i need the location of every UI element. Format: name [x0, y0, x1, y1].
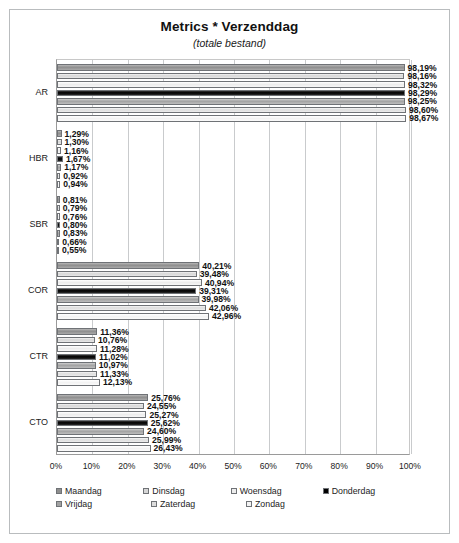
- x-axis-tick-label: 40%: [189, 461, 206, 471]
- bar-row: 98,60%: [57, 106, 409, 114]
- bar-group: 25,76%24,55%25,27%25,62%24,60%25,99%26,4…: [57, 393, 409, 452]
- legend-swatch-icon: [231, 488, 237, 494]
- bar-row: 42,96%: [57, 312, 409, 320]
- bar-row: 12,13%: [57, 378, 409, 386]
- bar-row: 0,76%: [57, 212, 409, 220]
- bar[interactable]: [57, 90, 405, 96]
- legend-label: Dinsdag: [152, 486, 184, 496]
- x-axis-tick-label: 30%: [154, 461, 171, 471]
- bar[interactable]: [57, 305, 206, 311]
- bar[interactable]: [57, 437, 149, 443]
- bar[interactable]: [57, 394, 148, 400]
- legend-row: VrijdagZaterdagZondag: [56, 499, 410, 509]
- bar[interactable]: [57, 271, 197, 277]
- bar[interactable]: [57, 81, 405, 87]
- legend-item-maandag[interactable]: Maandag: [56, 486, 143, 496]
- legend-label: Maandag: [65, 486, 102, 496]
- bar-row: 40,21%: [57, 261, 409, 269]
- bar-row: 40,94%: [57, 278, 409, 286]
- bar-row: 25,62%: [57, 419, 409, 427]
- bar-row: 98,19%: [57, 63, 409, 71]
- bar-row: 98,67%: [57, 114, 409, 122]
- chart-subtitle: (totale bestand): [0, 36, 459, 50]
- bar-row: 0,79%: [57, 204, 409, 212]
- bar[interactable]: [57, 64, 405, 70]
- bar[interactable]: [57, 328, 97, 334]
- legend-item-dinsdag[interactable]: Dinsdag: [143, 486, 230, 496]
- bar[interactable]: [57, 98, 405, 104]
- legend-item-zaterdag[interactable]: Zaterdag: [151, 499, 246, 509]
- bar-group: 98,19%98,16%98,32%98,29%98,25%98,60%98,6…: [57, 63, 409, 122]
- bar-value-label: 42,96%: [209, 311, 241, 321]
- x-axis-tick-label: 80%: [331, 461, 348, 471]
- legend-label: Woensdag: [240, 486, 282, 496]
- bar-group: 11,36%10,76%11,28%11,02%10,97%11,33%12,1…: [57, 327, 409, 386]
- legend-row: MaandagDinsdagWoensdagDonderdag: [56, 486, 410, 496]
- category-axis-label-cto: CTO: [0, 417, 48, 427]
- bar-row: 24,60%: [57, 427, 409, 435]
- legend-item-zondag[interactable]: Zondag: [246, 499, 346, 509]
- legend-label: Zaterdag: [160, 499, 195, 509]
- legend-item-woensdag[interactable]: Woensdag: [231, 486, 323, 496]
- bar[interactable]: [57, 371, 97, 377]
- bar-row: 25,76%: [57, 393, 409, 401]
- legend-swatch-icon: [56, 501, 62, 507]
- bar-row: 26,43%: [57, 444, 409, 452]
- legend-swatch-icon: [151, 501, 157, 507]
- x-axis-tick-label: 70%: [295, 461, 312, 471]
- bar-row: 1,67%: [57, 155, 409, 163]
- bar[interactable]: [57, 403, 144, 409]
- plot-area: 98,19%98,16%98,32%98,29%98,25%98,60%98,6…: [56, 59, 410, 455]
- legend-item-donderdag[interactable]: Donderdag: [323, 486, 410, 496]
- category-axis-label-cor: COR: [0, 285, 48, 295]
- bar[interactable]: [57, 296, 199, 302]
- bar[interactable]: [57, 115, 406, 121]
- bar-row: 0,83%: [57, 229, 409, 237]
- bar-row: 24,55%: [57, 402, 409, 410]
- bar[interactable]: [57, 337, 95, 343]
- bar-row: 1,16%: [57, 146, 409, 154]
- legend-swatch-icon: [143, 488, 149, 494]
- bar-row: 0,94%: [57, 180, 409, 188]
- bar[interactable]: [57, 279, 202, 285]
- bar[interactable]: [57, 428, 144, 434]
- bar-row: 98,29%: [57, 89, 409, 97]
- bar[interactable]: [57, 362, 96, 368]
- x-axis-tick-label: 100%: [399, 461, 421, 471]
- bar[interactable]: [57, 73, 404, 79]
- bar-row: 0,81%: [57, 195, 409, 203]
- category-axis-label-ctr: CTR: [0, 351, 48, 361]
- legend-label: Zondag: [255, 499, 285, 509]
- x-axis-tick-label: 0%: [50, 461, 62, 471]
- bar-group: 0,81%0,79%0,76%0,80%0,83%0,66%0,55%: [57, 195, 409, 254]
- bar-row: 0,80%: [57, 221, 409, 229]
- bar[interactable]: [57, 420, 148, 426]
- x-axis-tick-label: 60%: [260, 461, 277, 471]
- chart-container: Metrics * Verzenddag (totale bestand) 98…: [0, 0, 459, 543]
- bar-value-label: 0,55%: [59, 245, 86, 255]
- legend-label: Donderdag: [332, 486, 376, 496]
- bar[interactable]: [57, 445, 151, 451]
- x-axis-tick-label: 10%: [83, 461, 100, 471]
- bar[interactable]: [57, 354, 96, 360]
- bar[interactable]: [57, 288, 196, 294]
- bar[interactable]: [57, 379, 100, 385]
- category-axis-label-ar: AR: [0, 87, 48, 97]
- bar-value-label: 0,94%: [60, 179, 87, 189]
- bar-row: 98,32%: [57, 80, 409, 88]
- category-axis-label-sbr: SBR: [0, 219, 48, 229]
- category-axis-label-hbr: HBR: [0, 153, 48, 163]
- bar[interactable]: [57, 262, 199, 268]
- bar[interactable]: [57, 107, 406, 113]
- bar-row: 1,29%: [57, 129, 409, 137]
- bar-row: 98,16%: [57, 72, 409, 80]
- bar-row: 98,25%: [57, 97, 409, 105]
- bar-row: 39,31%: [57, 287, 409, 295]
- bar[interactable]: [57, 313, 209, 319]
- bar-row: 0,55%: [57, 246, 409, 254]
- bar[interactable]: [57, 411, 146, 417]
- legend-item-vrijdag[interactable]: Vrijdag: [56, 499, 151, 509]
- bar[interactable]: [57, 345, 97, 351]
- x-axis-tick-label: 50%: [224, 461, 241, 471]
- bar-group: 40,21%39,48%40,94%39,31%39,98%42,06%42,9…: [57, 261, 409, 320]
